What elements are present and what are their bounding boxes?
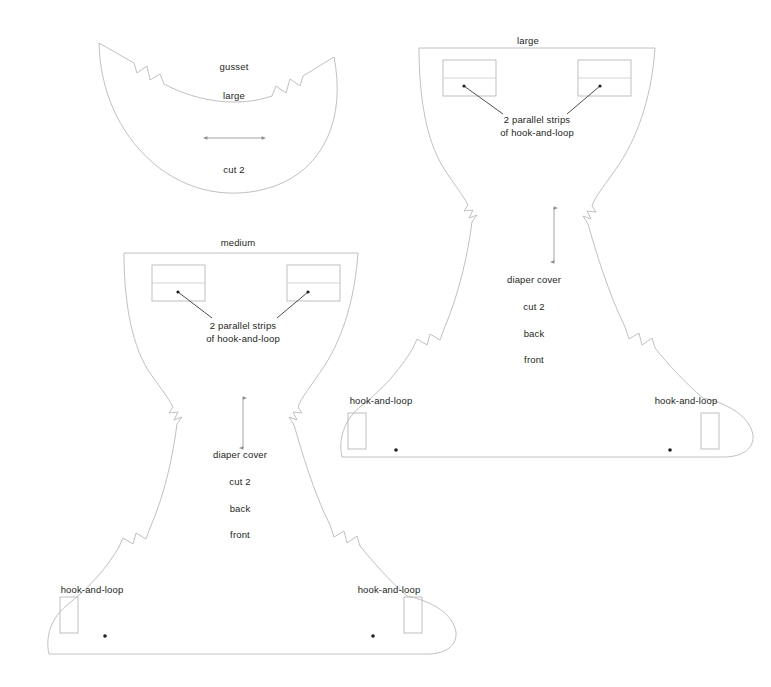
diaper-cover-large-strip-box-right	[578, 60, 631, 96]
diaper-cover-large-tab-box-left	[348, 413, 366, 449]
diaper-cover-medium-mark-right	[371, 634, 375, 638]
gusset-size-label: large	[223, 89, 245, 102]
gusset-large-outline	[99, 43, 337, 193]
pattern-sheet: gusset large cut 2 large 2 parallel stri…	[0, 0, 771, 687]
diaper-cover-medium-hook-and-loop-right-label: hook-and-loop	[358, 583, 421, 596]
diaper-cover-large-mark-left	[394, 448, 398, 452]
diaper-cover-medium-strip-box-right	[287, 265, 340, 301]
diaper-cover-large-size-label: large	[517, 34, 539, 47]
diaper-cover-medium-mark-left	[103, 634, 107, 638]
diaper-cover-medium-tab-box-left	[60, 597, 78, 633]
diaper-cover-medium-front-label: front	[230, 528, 250, 541]
diaper-cover-large-back-label: back	[524, 327, 545, 340]
diaper-cover-large-tab-box-right	[701, 413, 719, 449]
diaper-cover-medium-tab-box-right	[404, 597, 422, 633]
diaper-cover-medium-leader-right	[277, 290, 310, 318]
diaper-cover-large-strip-box-left	[443, 60, 496, 96]
diaper-cover-large-strips-note-line2: of hook-and-loop	[500, 126, 574, 137]
diaper-cover-large-mark-right	[668, 448, 672, 452]
diaper-cover-medium-back-label: back	[230, 502, 251, 515]
diaper-cover-medium-strips-note: 2 parallel strips of hook-and-loop	[206, 320, 280, 345]
gusset-cut-instruction-label: cut 2	[223, 163, 244, 176]
diaper-cover-large-strips-note-line1: 2 parallel strips	[504, 114, 570, 125]
diaper-cover-medium-hook-and-loop-left-label: hook-and-loop	[61, 583, 124, 596]
diaper-cover-large-strips-note: 2 parallel strips of hook-and-loop	[500, 114, 574, 139]
diaper-cover-medium-strip-box-left	[152, 265, 205, 301]
diaper-cover-medium-size-label: medium	[221, 236, 256, 249]
diaper-cover-medium-strips-note-line1: 2 parallel strips	[210, 320, 276, 331]
diaper-cover-medium-leader-left	[176, 290, 212, 318]
diaper-cover-large-hook-and-loop-right-label: hook-and-loop	[655, 394, 718, 407]
diaper-cover-medium-piece-name-label: diaper cover	[213, 448, 267, 461]
diaper-cover-large-piece-name-label: diaper cover	[507, 273, 561, 286]
diaper-cover-large-leader-right	[567, 84, 602, 114]
diaper-cover-large-hook-and-loop-left-label: hook-and-loop	[350, 394, 413, 407]
diaper-cover-medium-strips-note-line2: of hook-and-loop	[206, 332, 280, 343]
diaper-cover-large-leader-left	[462, 84, 503, 114]
diaper-cover-medium-cut-instruction-label: cut 2	[229, 475, 250, 488]
diaper-cover-large-cut-instruction-label: cut 2	[523, 300, 544, 313]
gusset-piece-name-label: gusset	[220, 60, 249, 73]
diaper-cover-large-front-label: front	[524, 353, 544, 366]
